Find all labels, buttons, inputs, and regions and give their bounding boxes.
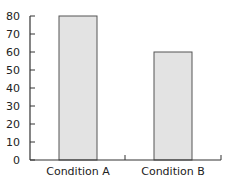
- y-tick-label: 80: [6, 10, 20, 23]
- bar-chart: 0 10 20 30 40 50 60 70 80 Condition A Co…: [0, 0, 236, 182]
- bar-condition-b: [154, 52, 192, 160]
- x-category-label-a: Condition A: [46, 165, 110, 178]
- y-tick-label: 50: [6, 64, 20, 77]
- y-ticks: [30, 16, 35, 160]
- y-tick-label: 60: [6, 46, 20, 59]
- y-tick-label: 40: [6, 82, 20, 95]
- bar-condition-a: [59, 16, 97, 160]
- y-tick-labels: 0 10 20 30 40 50 60 70 80: [6, 10, 20, 167]
- y-tick-label: 20: [6, 118, 20, 131]
- y-tick-label: 0: [13, 154, 20, 167]
- x-category-label-b: Condition B: [141, 165, 205, 178]
- y-tick-label: 10: [6, 136, 20, 149]
- y-tick-label: 70: [6, 28, 20, 41]
- y-tick-label: 30: [6, 100, 20, 113]
